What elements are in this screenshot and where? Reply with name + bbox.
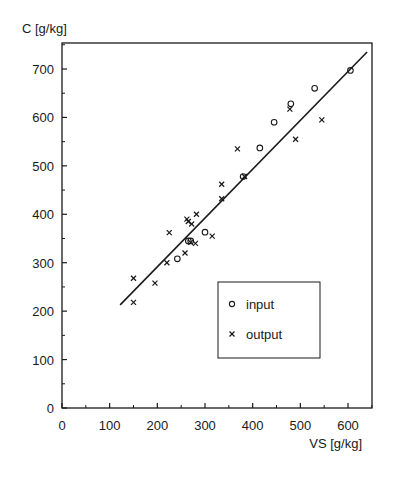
- output-point: [193, 241, 198, 246]
- x-tick-label: 100: [99, 418, 121, 433]
- x-tick-label: 200: [146, 418, 168, 433]
- y-tick-label: 100: [32, 353, 54, 368]
- output-point: [164, 260, 169, 265]
- output-point: [235, 146, 240, 151]
- input-point: [175, 256, 181, 262]
- output-point: [210, 234, 215, 239]
- y-tick-label: 700: [32, 62, 54, 77]
- legend-box: [218, 282, 320, 358]
- output-point: [293, 137, 298, 142]
- y-tick-label: 0: [47, 401, 54, 416]
- y-tick-label: 200: [32, 304, 54, 319]
- input-point: [202, 229, 208, 235]
- y-tick-label: 500: [32, 159, 54, 174]
- y-axis-title: C [g/kg]: [22, 21, 67, 36]
- output-point: [131, 300, 136, 305]
- input-point: [288, 101, 294, 107]
- x-tick-label: 600: [337, 418, 359, 433]
- legend: input output: [218, 282, 320, 358]
- x-tick-label: 0: [58, 418, 65, 433]
- input-point: [271, 119, 277, 125]
- output-point: [167, 230, 172, 235]
- scatter-chart: C [g/kg] 0100200300400500600700 01002003…: [0, 0, 401, 479]
- output-point: [319, 117, 324, 122]
- output-point: [194, 212, 199, 217]
- input-point: [312, 86, 318, 92]
- x-tick-label: 400: [242, 418, 264, 433]
- output-point: [152, 281, 157, 286]
- x-axis-title: VS [g/kg]: [309, 436, 362, 451]
- regression-line: [120, 52, 367, 305]
- legend-label-input: input: [246, 297, 275, 312]
- y-tick-label: 300: [32, 256, 54, 271]
- output-point: [219, 182, 224, 187]
- plot-frame: [62, 43, 372, 408]
- x-tick-label: 500: [289, 418, 311, 433]
- data-points: [131, 68, 353, 305]
- output-point: [182, 251, 187, 256]
- y-tick-label: 600: [32, 110, 54, 125]
- output-point: [131, 276, 136, 281]
- legend-label-output: output: [246, 327, 283, 342]
- output-point: [287, 107, 292, 112]
- y-tick-label: 400: [32, 207, 54, 222]
- input-point: [257, 145, 263, 151]
- x-tick-label: 300: [194, 418, 216, 433]
